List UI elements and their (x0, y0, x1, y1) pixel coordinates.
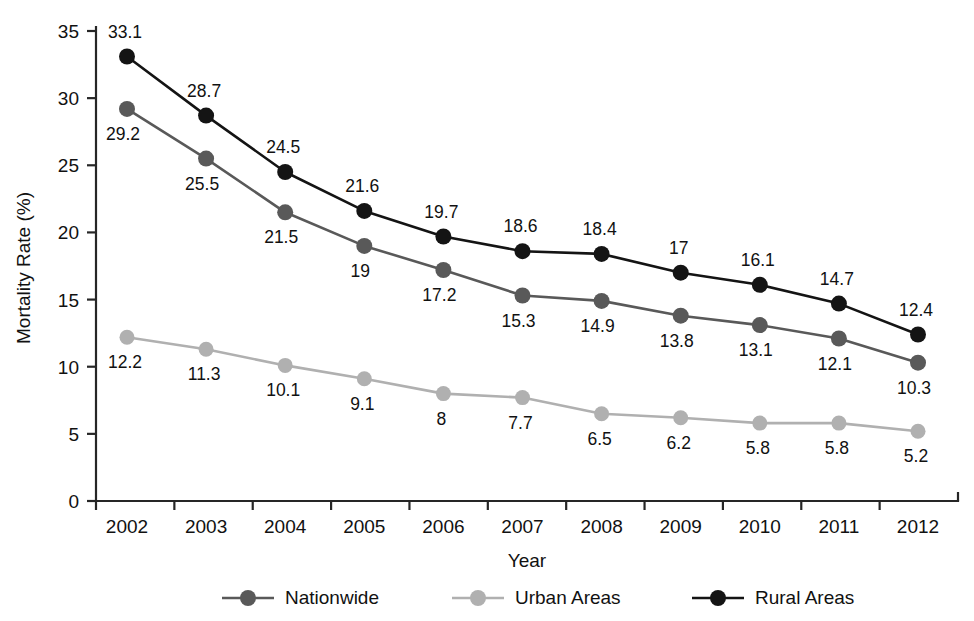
x-axis-tick-label: 2008 (580, 516, 622, 537)
x-axis-tick-label: 2007 (501, 516, 543, 537)
data-point-label: 17.2 (422, 285, 456, 305)
x-axis-tick-label: 2006 (422, 516, 464, 537)
y-axis-tick-label: 5 (68, 424, 79, 445)
data-point-label: 13.1 (739, 340, 773, 360)
data-point-label: 12.1 (818, 354, 852, 374)
data-point-label: 9.1 (350, 394, 374, 414)
y-axis-tick-label: 20 (58, 222, 79, 243)
x-axis-tick-label: 2002 (106, 516, 148, 537)
line-chart: 05101520253035 2002200320042005200620072… (0, 0, 974, 621)
x-axis-tick-label: 2011 (818, 516, 859, 537)
legend-marker-dot (240, 590, 256, 606)
legend-item-urban-areas[interactable]: Urban Areas (452, 587, 621, 608)
data-point (357, 371, 372, 386)
y-axis-tick-label: 35 (58, 21, 79, 42)
y-axis-tick-label: 15 (58, 290, 79, 311)
data-point-label: 15.3 (501, 311, 535, 331)
data-point-label: 28.7 (187, 81, 221, 101)
data-point-label: 12.4 (899, 300, 933, 320)
x-axis: 2002200320042005200620072008200920102011… (96, 492, 958, 537)
data-point-label: 5.8 (825, 438, 849, 458)
legend-item-label: Rural Areas (755, 587, 854, 608)
y-axis: 05101520253035 (58, 21, 96, 512)
x-axis-tick-label: 2009 (660, 516, 702, 537)
data-point (673, 410, 688, 425)
data-point (831, 331, 847, 347)
x-axis-tick-label: 2012 (897, 516, 939, 537)
data-point-label: 14.9 (581, 316, 615, 336)
data-point-label: 5.8 (746, 438, 770, 458)
data-point-label: 21.6 (345, 176, 379, 196)
chart-legend: NationwideUrban AreasRural Areas (222, 587, 854, 608)
legend-marker-dot (710, 590, 726, 606)
data-point (277, 164, 293, 180)
data-point (198, 108, 214, 124)
data-point-label: 16.1 (741, 250, 775, 270)
data-point (752, 317, 768, 333)
data-point-label: 25.5 (185, 174, 219, 194)
data-point (436, 386, 451, 401)
legend-item-nationwide[interactable]: Nationwide (222, 587, 379, 608)
data-point-label: 14.7 (820, 269, 854, 289)
data-point-label: 17 (669, 238, 688, 258)
data-point (515, 288, 531, 304)
x-axis-tick-label: 2003 (185, 516, 227, 537)
data-point-label: 8 (437, 409, 447, 429)
data-point (515, 243, 531, 259)
data-point-label: 10.3 (897, 378, 931, 398)
data-point (673, 265, 689, 281)
data-point (673, 308, 689, 324)
data-point-label: 21.5 (264, 227, 298, 247)
data-point (910, 355, 926, 371)
data-point-label: 13.8 (660, 331, 694, 351)
data-point (119, 49, 135, 65)
data-point-label: 24.5 (266, 137, 300, 157)
legend-item-rural-areas[interactable]: Rural Areas (692, 587, 854, 608)
data-point (277, 204, 293, 220)
data-point (120, 330, 135, 345)
data-point (435, 229, 451, 245)
chart-container: 05101520253035 2002200320042005200620072… (0, 0, 974, 621)
data-point (594, 246, 610, 262)
data-point (831, 296, 847, 312)
data-point (752, 277, 768, 293)
data-point (911, 424, 926, 439)
data-point-label: 5.2 (904, 446, 928, 466)
data-point-label: 29.2 (106, 124, 140, 144)
data-point (435, 262, 451, 278)
x-axis-tick-label: 2010 (739, 516, 781, 537)
data-point (515, 390, 530, 405)
data-point-label: 19 (351, 261, 370, 281)
data-point (278, 358, 293, 373)
legend-item-label: Urban Areas (515, 587, 621, 608)
legend-marker-dot (470, 590, 486, 606)
data-point (594, 293, 610, 309)
data-point (356, 203, 372, 219)
data-point-label: 12.2 (108, 352, 142, 372)
data-point-label: 10.1 (266, 380, 300, 400)
data-point (752, 416, 767, 431)
data-point-label: 33.1 (108, 22, 142, 42)
data-point (910, 327, 926, 343)
data-point (198, 151, 214, 167)
data-point-label: 6.5 (587, 429, 611, 449)
x-axis-tick-label: 2004 (264, 516, 307, 537)
y-axis-tick-label: 10 (58, 357, 79, 378)
data-point-label: 11.3 (188, 364, 221, 384)
data-point-label: 18.6 (503, 216, 537, 236)
y-axis-title: Mortality Rate (%) (13, 192, 34, 344)
y-axis-tick-label: 25 (58, 155, 79, 176)
y-axis-tick-label: 0 (68, 491, 79, 512)
data-point-label: 18.4 (583, 219, 617, 239)
data-point (199, 342, 214, 357)
legend-item-label: Nationwide (285, 587, 379, 608)
data-point-label: 7.7 (508, 413, 532, 433)
y-axis-tick-label: 30 (58, 88, 79, 109)
x-axis-tick-label: 2005 (343, 516, 385, 537)
series-layer (119, 49, 926, 439)
data-point-label: 19.7 (424, 202, 458, 222)
data-point (594, 406, 609, 421)
data-point (356, 238, 372, 254)
x-axis-title: Year (508, 550, 547, 571)
data-point-label: 6.2 (667, 433, 691, 453)
